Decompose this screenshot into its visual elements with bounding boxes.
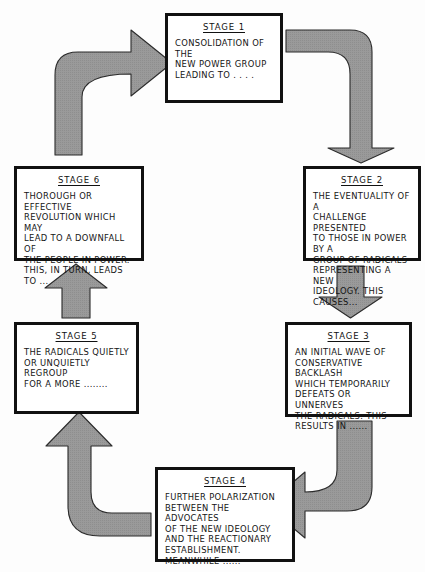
stage-box-3[interactable]: STAGE 3 AN INITIAL WAVE OF CONSERVATIVE …	[285, 322, 412, 417]
stage-2-body: THE EVENTUALITY OF A CHALLENGE PRESENTED…	[313, 191, 411, 308]
arrow-6-to-1	[55, 30, 172, 155]
stage-box-6[interactable]: STAGE 6 THOROUGH OR EFFECTIVE REVOLUTION…	[14, 166, 144, 261]
stage-3-body: AN INITIAL WAVE OF CONSERVATIVE BACKLASH…	[295, 347, 402, 432]
stage-4-body: FURTHER POLARIZATION BETWEEN THE ADVOCAT…	[165, 492, 285, 566]
arrow-1-to-2	[286, 30, 394, 163]
arrow-4-to-5	[46, 412, 151, 536]
stage-5-body: THE RADICALS QUIETLY OR UNQUIETLY REGROU…	[24, 347, 129, 389]
stage-5-title: STAGE 5	[24, 331, 129, 341]
diagram-canvas: STAGE 1 CONSOLIDATION OF THE NEW POWER G…	[0, 0, 425, 572]
stage-1-title: STAGE 1	[175, 22, 273, 32]
stage-2-title: STAGE 2	[313, 175, 411, 185]
stage-6-title: STAGE 6	[24, 175, 134, 185]
stage-box-5[interactable]: STAGE 5 THE RADICALS QUIETLY OR UNQUIETL…	[14, 322, 139, 414]
stage-box-4[interactable]: STAGE 4 FURTHER POLARIZATION BETWEEN THE…	[155, 467, 295, 562]
stage-box-1[interactable]: STAGE 1 CONSOLIDATION OF THE NEW POWER G…	[165, 13, 283, 103]
stage-3-title: STAGE 3	[295, 331, 402, 341]
stage-6-body: THOROUGH OR EFFECTIVE REVOLUTION WHICH M…	[24, 191, 134, 286]
stage-box-2[interactable]: STAGE 2 THE EVENTUALITY OF A CHALLENGE P…	[303, 166, 421, 261]
stage-4-title: STAGE 4	[165, 476, 285, 486]
stage-1-body: CONSOLIDATION OF THE NEW POWER GROUP LEA…	[175, 38, 273, 80]
